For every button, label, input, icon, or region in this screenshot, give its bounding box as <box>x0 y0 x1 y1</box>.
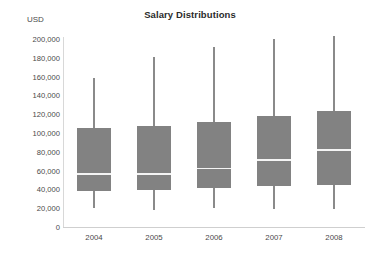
median-line <box>317 149 351 151</box>
x-axis-tick-label: 2004 <box>64 233 124 242</box>
x-axis-tick-label: 2008 <box>304 233 364 242</box>
box-plot-chart: Salary Distributions USD 200,000180,0001… <box>0 0 378 262</box>
x-axis-line <box>63 227 365 228</box>
y-axis-tick-label: 0 <box>4 223 60 232</box>
y-axis-tick-label: 20,000 <box>4 204 60 213</box>
x-axis-tick-label: 2006 <box>184 233 244 242</box>
box-plot-item <box>0 0 378 188</box>
x-axis-tick-label: 2005 <box>124 233 184 242</box>
x-axis-tick-label: 2007 <box>244 233 304 242</box>
